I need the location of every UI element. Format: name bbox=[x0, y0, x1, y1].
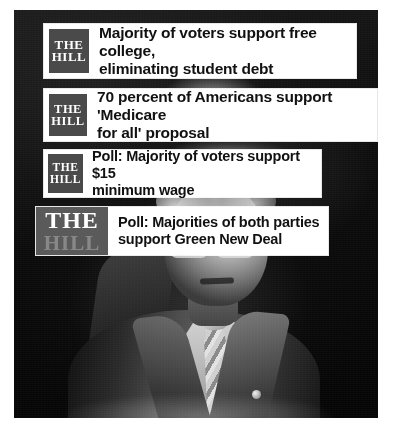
the-hill-logo-icon: THE HILL bbox=[48, 154, 83, 193]
headline-text: Poll: Majority of voters support $15 min… bbox=[92, 154, 317, 193]
headline-line-2: eliminating student debt bbox=[99, 60, 351, 78]
headline-line-1: 70 percent of Americans support 'Medicar… bbox=[97, 88, 372, 124]
headline-line-2: minimum wage bbox=[92, 182, 317, 199]
headline-line-1: Poll: Majorities of both parties bbox=[118, 214, 319, 231]
headline-card-medicare-for-all[interactable]: THE HILL 70 percent of Americans support… bbox=[44, 89, 377, 141]
the-hill-logo-icon: THE HILL bbox=[49, 94, 87, 136]
headline-text: 70 percent of Americans support 'Medicar… bbox=[97, 94, 372, 136]
headline-text: Poll: Majorities of both parties support… bbox=[108, 207, 328, 255]
headline-card-free-college[interactable]: THE HILL Majority of voters support free… bbox=[44, 24, 356, 78]
headline-line-2: for all' proposal bbox=[97, 124, 372, 142]
the-hill-logo-icon: THE HILL bbox=[49, 29, 89, 73]
headline-line-1: Majority of voters support free college, bbox=[99, 24, 351, 60]
headline-card-green-new-deal[interactable]: THE HILL Poll: Majorities of both partie… bbox=[36, 207, 328, 255]
screenshot-root: THE HILL Majority of voters support free… bbox=[0, 0, 394, 430]
headline-text: Majority of voters support free college,… bbox=[99, 29, 351, 73]
headline-line-2: support Green New Deal bbox=[118, 231, 319, 248]
headline-card-minimum-wage[interactable]: THE HILL Poll: Majority of voters suppor… bbox=[44, 150, 321, 197]
headline-line-1: Poll: Majority of voters support $15 bbox=[92, 148, 317, 182]
the-hill-logo-icon: THE HILL bbox=[36, 207, 108, 255]
